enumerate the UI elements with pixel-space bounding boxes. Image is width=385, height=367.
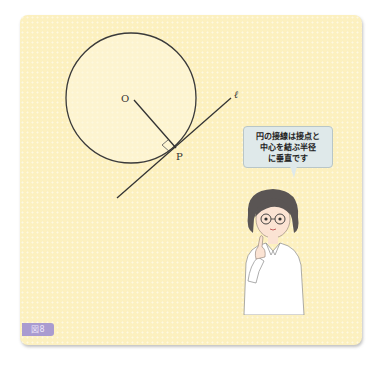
character-illustration [238,185,308,315]
speech-bubble: 円の接線は接点と 中心を結ぶ半径 に垂直です [243,126,333,168]
circle [66,33,196,163]
neck [268,236,278,244]
left-eye [264,217,267,220]
geometry-diagram: O P ℓ [0,0,385,367]
speech-bubble-tail [290,166,297,178]
speech-line-2: 中心を結ぶ半径 [260,142,316,153]
line-label: ℓ [234,89,238,100]
point-label: P [176,151,183,162]
speech-line-3: に垂直です [268,153,308,164]
stage: O P ℓ 円の接線は接点と 中心を結ぶ半径 に垂直です 図8 [0,0,385,367]
right-eye [278,217,281,220]
center-label: O [121,93,129,104]
figure-number-tag: 図8 [22,323,54,336]
speech-line-1: 円の接線は接点と [256,131,320,142]
